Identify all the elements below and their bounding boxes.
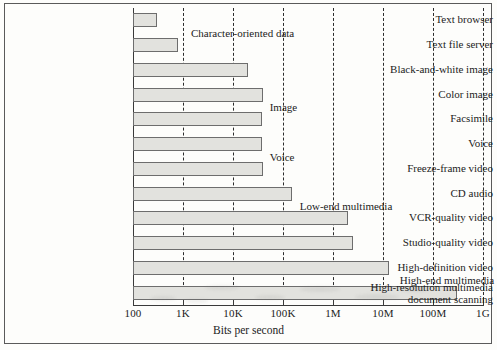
x-tick-label-10K: 10K	[223, 307, 243, 319]
bar	[133, 236, 353, 250]
bar	[133, 38, 178, 52]
category-label: Color image	[369, 89, 497, 101]
x-tick-label-1K: 1K	[176, 307, 190, 319]
annotation: Character-oriented data	[191, 27, 294, 39]
x-tick-label-10M: 10M	[372, 307, 393, 319]
bar	[133, 137, 262, 151]
category-label: Freeze-frame video	[369, 163, 497, 175]
x-tick-label-100K: 100K	[270, 307, 295, 319]
annotation: Image	[270, 101, 297, 113]
category-label: Text file server	[369, 39, 497, 51]
bar	[133, 88, 263, 102]
category-label: VCR-quality video	[369, 212, 497, 224]
x-tick-label-100M: 100M	[419, 307, 446, 319]
bandwidth-requirements-chart: Bits per second 1001K10K100K1M10M100M1GT…	[0, 0, 497, 350]
x-tick-1K	[183, 299, 184, 306]
category-label: Voice	[369, 138, 497, 150]
bar	[133, 211, 348, 225]
x-axis-line	[133, 305, 483, 306]
x-tick-label-1M: 1M	[325, 307, 341, 319]
x-tick-label-100: 100	[124, 307, 141, 319]
category-label: Studio-quality video	[369, 237, 497, 249]
category-label: Text browser	[369, 14, 497, 26]
annotation: Low-end multimedia	[300, 200, 393, 212]
x-tick-10K	[233, 299, 234, 306]
x-axis-title: Bits per second	[0, 324, 497, 336]
category-label: CD audio	[369, 188, 497, 200]
x-tick-100K	[283, 299, 284, 306]
category-label: Black-and-white image	[369, 64, 497, 76]
annotation: Voice	[270, 151, 295, 163]
category-label: High-definition video	[369, 262, 497, 274]
bar	[133, 187, 292, 201]
x-tick-label-1G: 1G	[476, 307, 490, 319]
category-label: Facsimile	[369, 113, 497, 125]
bar	[133, 162, 263, 176]
bar	[133, 63, 248, 77]
annotation: High-end multimedia	[400, 274, 494, 286]
bar	[133, 261, 389, 275]
bar	[133, 13, 157, 27]
bar	[133, 112, 262, 126]
x-tick-1M	[333, 299, 334, 306]
